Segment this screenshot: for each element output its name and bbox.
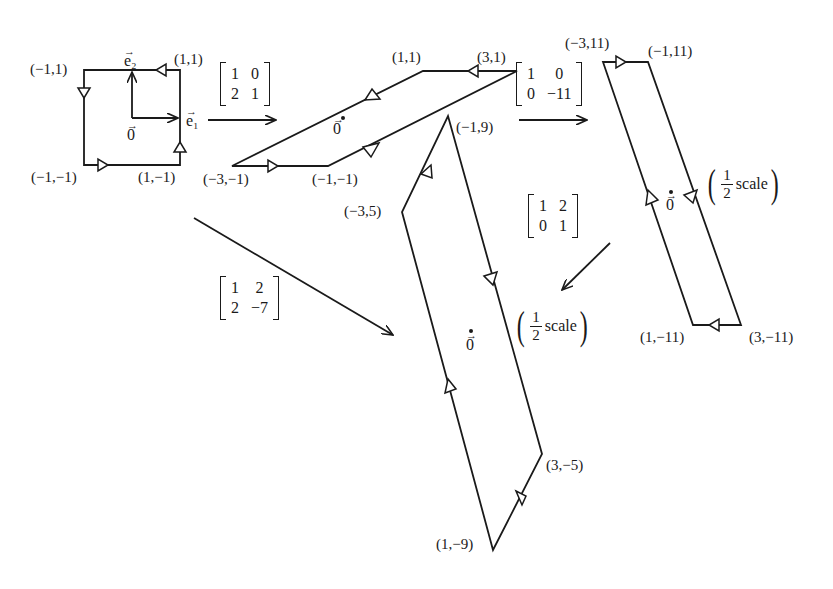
vertex-label: (1,1)	[392, 50, 421, 65]
e1-label: →e₁	[186, 112, 199, 130]
origin-label: →0	[333, 120, 341, 138]
e2-label: →e₂	[124, 52, 137, 70]
origin-label: →0	[127, 126, 135, 144]
direction-marker	[363, 143, 379, 157]
diagram-canvas	[0, 0, 833, 589]
direction-marker	[646, 190, 658, 205]
matrix-B: 10 0−11	[518, 64, 580, 104]
direction-marker	[98, 159, 108, 171]
direction-marker	[468, 65, 478, 77]
vertex-label: (−3,5)	[344, 204, 381, 219]
vertex-label: (3,−11)	[749, 330, 793, 345]
direction-marker	[709, 319, 719, 331]
vertex-label: (−1,−1)	[31, 170, 77, 185]
direction-marker	[78, 88, 90, 98]
vertex-label: (−1,11)	[648, 44, 692, 59]
vertex-label: (1,−9)	[436, 537, 473, 552]
vertex-label: (3,1)	[477, 50, 506, 65]
vertex-label: (−1,9)	[456, 120, 493, 135]
vertex-label: (−3,−1)	[203, 172, 249, 187]
origin-label: →0	[666, 196, 674, 214]
vertex-label: (−3,11)	[565, 36, 609, 51]
vertex-label: (1,−11)	[640, 330, 684, 345]
matrix-C: 12 01	[530, 196, 576, 236]
vertex-label: (1,1)	[174, 52, 203, 67]
direction-marker	[156, 64, 166, 76]
matrix-A: 10 21	[222, 64, 268, 104]
direction-marker	[174, 142, 186, 152]
direction-marker	[616, 56, 626, 68]
vertex-label: (3,−5)	[546, 458, 583, 473]
vertex-label: (1,−1)	[138, 170, 175, 185]
vertex-label: (−1,1)	[30, 62, 67, 77]
origin-label: →0	[466, 336, 474, 354]
direction-marker	[684, 190, 697, 203]
scale-note: ( 12 scale )	[705, 164, 781, 204]
direction-marker	[268, 160, 278, 172]
vertex-label: (−1,−1)	[312, 172, 358, 187]
matrix-D: 12 2−7	[222, 278, 277, 318]
scale-note: ( 12 scale )	[514, 306, 590, 346]
arrow-matrix-C	[562, 243, 610, 290]
